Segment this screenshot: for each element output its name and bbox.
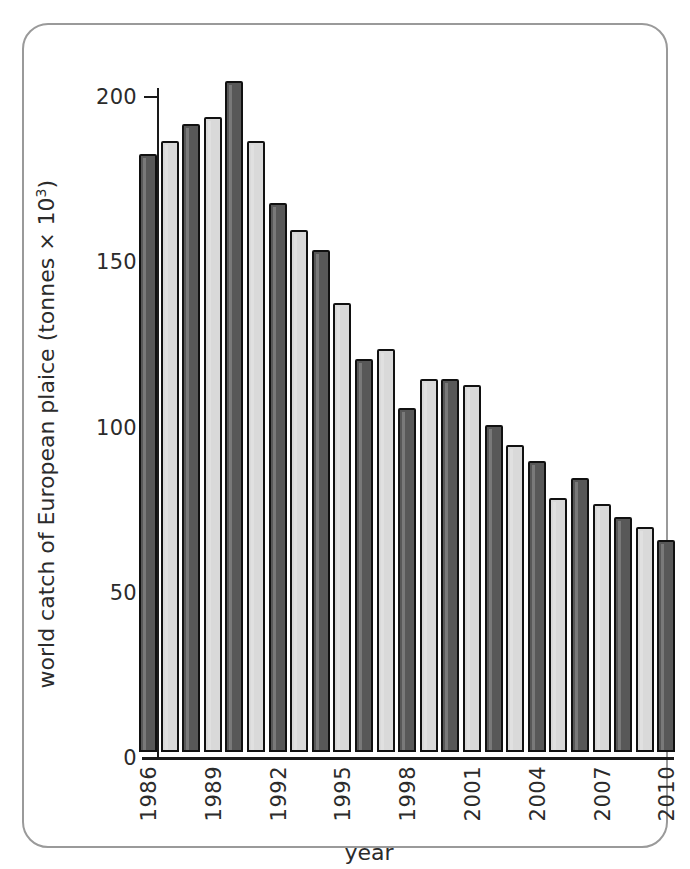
bar-2008 (614, 517, 632, 752)
bar-1997 (377, 349, 395, 752)
bar-1990 (225, 81, 243, 752)
bar-1994 (312, 250, 330, 752)
bar-2003 (506, 445, 524, 752)
x-axis-tick-label: 2004 (526, 766, 550, 821)
x-axis-tick-label: 1989 (202, 766, 226, 821)
x-axis-tick-label: 2010 (655, 766, 679, 821)
bar-1986 (139, 154, 157, 752)
y-axis-tick-label: 100 (96, 416, 137, 440)
y-axis-tick-label: 0 (123, 746, 137, 770)
y-axis-tick-label: 150 (96, 250, 137, 274)
bar-1995 (333, 303, 351, 752)
bar-2007 (593, 504, 611, 752)
bar-1988 (182, 124, 200, 752)
x-axis-tick-label: 1992 (267, 766, 291, 821)
bar-1993 (290, 230, 308, 752)
bar-2005 (549, 498, 567, 752)
bar-2000 (441, 379, 459, 752)
y-axis-tick-label: 50 (110, 581, 137, 605)
bar-1991 (247, 141, 265, 752)
bar-1996 (355, 359, 373, 752)
y-axis-tick-label: 200 (96, 85, 137, 109)
y-axis-title-text: world catch of European plaice (tonnes ×… (34, 180, 59, 689)
y-axis-line (157, 88, 159, 760)
x-axis-tick-label: 1986 (137, 766, 161, 821)
y-axis-tick (144, 757, 158, 759)
x-axis-tick-label: 2007 (591, 766, 615, 821)
bar-2006 (571, 478, 589, 752)
x-axis-tick-label: 1998 (396, 766, 420, 821)
bar-1989 (204, 117, 222, 752)
bar-2010 (657, 540, 675, 752)
bar-2001 (463, 385, 481, 752)
bar-1987 (161, 141, 179, 752)
bar-1998 (398, 408, 416, 752)
y-axis-tick (144, 96, 158, 98)
bar-2009 (636, 527, 654, 752)
figure-frame: 050100150200 198619891992199519982001200… (22, 23, 668, 848)
x-axis-line (142, 757, 674, 760)
bar-1992 (269, 203, 287, 752)
bar-2004 (528, 461, 546, 752)
x-axis-tick-label: 1995 (331, 766, 355, 821)
y-axis-title: world catch of European plaice (tonnes ×… (33, 154, 59, 714)
bar-1999 (420, 379, 438, 752)
x-axis-tick-label: 2001 (461, 766, 485, 821)
x-axis-title: year (24, 840, 690, 865)
bar-2002 (485, 425, 503, 752)
